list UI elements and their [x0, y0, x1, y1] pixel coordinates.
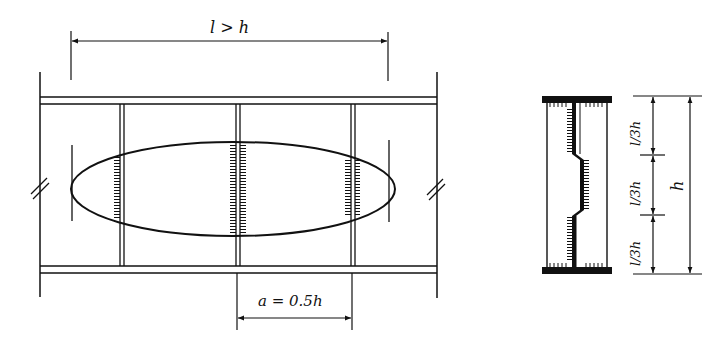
web-weld-bot [567, 216, 572, 262]
break-mark-right-icon [427, 179, 445, 200]
weld-hatch-3 [345, 160, 351, 216]
weld-hatch-2b [240, 143, 246, 235]
weld-hatch-3b [355, 160, 360, 216]
span-label: l > h [210, 18, 249, 37]
stiffener-3 [351, 104, 355, 266]
section-bottom-flange [542, 267, 612, 274]
stiffener-1 [120, 104, 124, 266]
bottom-flange [40, 266, 437, 273]
elevation-view [31, 31, 445, 330]
segment-label-middle: l/3h [628, 181, 643, 206]
segment-label-bottom: l/3h [628, 241, 643, 266]
weld-hatch-2a [230, 143, 236, 235]
web-weld-mid [584, 160, 589, 210]
girder-diagram: l > h a = 0.5h [0, 0, 724, 345]
top-flange [40, 97, 437, 104]
segment-label-top: l/3h [628, 121, 643, 146]
height-label: h [668, 181, 687, 191]
cross-section-view [542, 74, 702, 274]
web-weld-top [567, 108, 572, 154]
weld-hatch-1 [114, 155, 120, 219]
stiffener-spacing-label: a = 0.5h [258, 292, 323, 310]
stiffener-2 [236, 104, 240, 266]
span-dimension [71, 31, 388, 81]
